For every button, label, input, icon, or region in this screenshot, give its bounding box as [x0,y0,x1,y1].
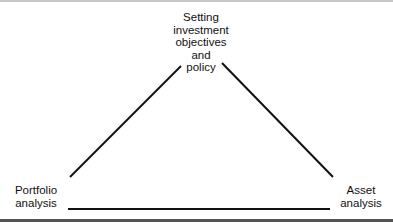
node-portfolio-analysis: Portfolio analysis [8,184,64,209]
node-line: analysis [8,197,64,210]
node-line: investment [146,24,256,37]
node-line: and [146,49,256,62]
node-line: Portfolio [8,184,64,197]
node-line: Setting [146,11,256,24]
node-asset-analysis: Asset analysis [333,184,389,209]
edge-top-to-portfolio [70,66,181,177]
edge-top-to-asset [222,63,333,177]
bottom-frame-border [0,219,393,222]
node-line: policy [146,61,256,74]
node-setting-investment-objectives: Setting investment objectives and policy [146,11,256,74]
node-line: Asset [333,184,389,197]
node-line: analysis [333,197,389,210]
node-line: objectives [146,36,256,49]
